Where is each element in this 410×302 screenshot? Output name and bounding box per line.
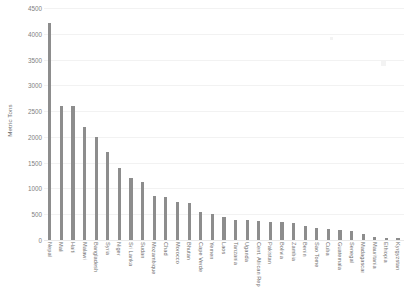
x-axis-tick-label: Benin [302,242,308,257]
bar-slot [160,8,172,240]
x-axis-tick-label-slot: Bolivia [276,241,288,302]
bar-slot [207,8,219,240]
bar-slot [137,8,149,240]
x-axis-tick-label: Sri Lanka [128,242,134,266]
bar [211,214,214,240]
x-axis-tick-label: Morocco [175,242,181,264]
y-axis-tick-label: 0 [38,237,42,244]
bar-slot [218,8,230,240]
x-axis-tick-label-slot: Malawi [79,241,91,302]
x-axis-tick-label: Bhutan [186,242,192,260]
bar [292,223,295,240]
plot-area [44,8,404,240]
x-axis-tick-label: Pakistan [267,242,273,264]
x-axis-tick-label: Chad [163,242,169,256]
bar [199,212,202,240]
x-axis-tick-label-slot: Cuba [323,241,335,302]
bar-chart: Metric Tons 4500400035003000250020001500… [0,0,410,302]
y-axis-tick-label: 4500 [28,5,42,12]
x-axis-tick-label-slot: Kyrgyzstan [392,241,404,302]
x-axis-tick-label: Mali [58,242,64,252]
x-axis-tick-label: Mauritania [372,242,378,269]
x-axis-tick-label-slot: Sao Tome [311,241,323,302]
x-axis-tick-label-slot: Niger [114,241,126,302]
x-axis-tick-label-slot: Sudan [137,241,149,302]
bar-slot [265,8,277,240]
x-axis-tick-label-slot: Tanzania [230,241,242,302]
x-axis-tick-label-slot: Guatemala [334,241,346,302]
bar-slot [183,8,195,240]
x-axis-tick-label-slot: Bangladesh [90,241,102,302]
bar [385,238,388,240]
bar-slot [125,8,137,240]
bar-slot [241,8,253,240]
x-axis-tick-label: Malawi [82,242,88,260]
bar [222,217,225,240]
bar [106,152,109,240]
y-axis-tick-label: 500 [31,211,42,218]
bar-slot [334,8,346,240]
x-axis-tick-label-slot: Sri Lanka [125,241,137,302]
x-axis-tick-label: Guatemala [337,242,343,270]
bar [188,203,191,240]
x-axis-tick-label-slot: Madagascar [357,241,369,302]
bar [48,23,51,240]
x-axis-tick-label-slot: Morocco [172,241,184,302]
x-axis-tick-label: Nepal [47,242,53,257]
bar-slot [67,8,79,240]
bar-slot [381,8,393,240]
y-axis-tick-labels: 450040003500300025002000150010005000 [16,8,42,240]
x-axis-tick-label: Cuba [325,242,331,256]
x-axis-tick-label: Laos [221,242,227,254]
x-axis-tick-label: Kyrgyzstan [395,242,401,270]
x-axis-tick-label-slot: Yemen [207,241,219,302]
x-axis-tick-label: Mozambique [151,242,157,275]
bar [71,106,74,240]
x-axis-tick-label-slot: Haiti [67,241,79,302]
bar-slot [346,8,358,240]
bar [60,106,63,240]
x-axis-tick-label-slot: Chad [160,241,172,302]
bar-slot [357,8,369,240]
bar [327,229,330,240]
x-axis-tick-label-slot: Syria [102,241,114,302]
bar [153,196,156,240]
x-axis-tick-label: Niger [116,242,122,256]
bar [176,202,179,240]
y-axis-title-label: Metric Tons [6,104,13,137]
bar-slot [276,8,288,240]
bar-slot [288,8,300,240]
x-axis-tick-label: Uganda [244,242,250,262]
x-axis-tick-label: Senegal [349,242,355,263]
bar [164,197,167,240]
x-axis-tick-label: Sao Tome [314,242,320,267]
bar [118,168,121,240]
bar [234,220,237,240]
x-axis-tick-label-slot: Nepal [44,241,56,302]
bar [95,137,98,240]
bar-slot [148,8,160,240]
bar-slot [369,8,381,240]
bar-slot [56,8,68,240]
x-axis-tick-label: Madagascar [360,242,366,273]
x-axis-tick-label-slot: Laos [218,241,230,302]
bar [304,226,307,240]
bar [350,231,353,240]
bar [269,222,272,240]
x-axis-tick-label-slot: Ethiopia [381,241,393,302]
bar-slot [323,8,335,240]
bar-slot [253,8,265,240]
y-axis-tick-label: 1000 [28,185,42,192]
x-axis-tick-label: Bangladesh [93,242,99,272]
x-axis-tick-label: Cape Verde [198,242,204,272]
bar [373,237,376,240]
bar-slot [102,8,114,240]
bar [338,230,341,240]
bar [315,228,318,240]
bar [280,222,283,240]
x-axis-tick-label: Zambia [291,242,297,261]
x-axis-tick-label-slot: Mozambique [148,241,160,302]
x-axis-tick-label-slot: Mauritania [369,241,381,302]
bar-slot [392,8,404,240]
x-axis-tick-label-slot: Zambia [288,241,300,302]
